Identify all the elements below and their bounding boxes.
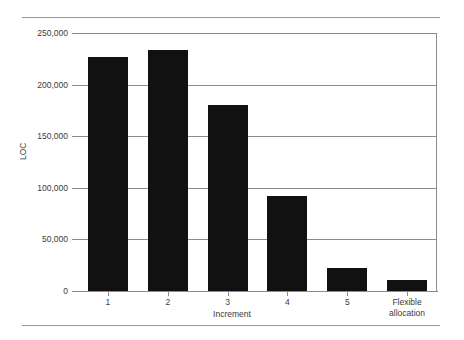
gridline [78,188,437,189]
bar [88,57,128,291]
x-axis-tick-label: 1 [75,297,141,308]
x-axis-tick-label: 2 [135,297,201,308]
x-axis-tick [228,292,229,296]
x-axis-tick-label: 3 [195,297,261,308]
y-axis-tick-label: 250,000 [37,28,68,38]
gridline [78,239,437,240]
y-axis-tick-label: 0 [63,286,68,296]
bar [148,50,188,291]
y-axis-tick [72,291,79,292]
y-axis-tick-label: 100,000 [37,183,68,193]
gridline [78,85,437,86]
x-axis-tick-label: 4 [254,297,320,308]
plot-area [78,33,437,291]
x-axis-line [78,291,438,292]
chart-figure: 250,000200,000150,000100,00050,0000 LOC … [0,0,464,340]
bar [327,268,367,291]
y-axis-title: LOC [18,143,28,160]
bar [267,196,307,291]
top-divider-rule [22,17,440,18]
y-axis-tick-label: 150,000 [37,131,68,141]
plot-background [78,33,437,291]
x-axis-tick [347,292,348,296]
bar [208,105,248,291]
y-axis-tick-label: 200,000 [37,80,68,90]
x-axis-title: Increment [0,309,464,319]
x-axis-tick [287,292,288,296]
gridline [78,136,437,137]
bottom-divider-rule [22,325,440,326]
gridline [78,33,437,34]
x-axis-tick [168,292,169,296]
x-axis-tick [407,292,408,296]
bar [387,280,427,291]
x-axis-tick [108,292,109,296]
y-axis-tick-label: 50,000 [42,234,68,244]
x-axis-tick-label: 5 [314,297,380,308]
